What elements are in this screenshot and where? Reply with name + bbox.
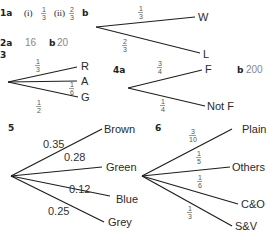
q3-branch-g [8, 82, 78, 97]
q1-outcome-w: W [198, 11, 209, 23]
q6-branch-co [142, 176, 238, 204]
q1-branch-w [96, 17, 195, 27]
q2-b-value: 20 [57, 37, 69, 48]
svg-text:3: 3 [139, 13, 143, 20]
svg-text:1: 1 [70, 81, 74, 88]
svg-text:3: 3 [36, 66, 40, 73]
q3-tree-diagram: 1 3 1 6 1 2 R A G [8, 58, 90, 114]
q5-prob-brown: 0.35 [43, 138, 64, 150]
svg-text:2: 2 [70, 6, 74, 13]
q5-outcome-grey: Grey [108, 216, 132, 228]
q4-part-b: b [237, 65, 244, 75]
q3-branch-r [8, 67, 77, 82]
svg-text:1: 1 [188, 205, 192, 212]
svg-text:1: 1 [37, 99, 41, 106]
svg-text:1: 1 [139, 5, 143, 12]
q5-prob-grey: 0.25 [48, 205, 69, 217]
svg-text:1: 1 [198, 174, 202, 181]
q5-tree-diagram: 0.35 0.28 0.12 0.25 Brown Green Blue Gre… [11, 123, 138, 228]
answers-page: 1a (i) 1 3 (ii) 2 3 b 1 3 2 3 [0, 0, 272, 236]
svg-text:6: 6 [70, 89, 74, 96]
q4-number: 4a [113, 65, 125, 75]
q6-branch-plain [142, 129, 232, 176]
q6-prob-plain: 3 10 [189, 128, 197, 143]
svg-text:3: 3 [188, 213, 192, 220]
svg-text:6: 6 [198, 182, 202, 189]
q4-prob-not-f: 1 4 [160, 98, 165, 113]
q6-branch-others [142, 167, 230, 176]
q2-a-value: 16 [25, 37, 37, 48]
q6-prob-co: 1 6 [197, 174, 202, 189]
q1-part-b: b [82, 8, 89, 18]
q4-tree-diagram: 3 4 1 4 F Not F [128, 60, 234, 113]
q1-part-i-fraction: 1 3 [41, 6, 46, 21]
q3-prob-g: 1 2 [36, 99, 41, 114]
q6-outcome-co: C&O [241, 198, 265, 210]
q6-answer: 6 3 10 1 5 1 6 1 3 [142, 123, 266, 232]
q1-number: 1a [0, 8, 12, 18]
q6-prob-others: 1 5 [196, 150, 201, 165]
q1-branch-l [96, 27, 200, 53]
svg-text:4: 4 [161, 106, 165, 113]
q5-outcome-green: Green [106, 161, 137, 173]
q3-branch-a [8, 81, 77, 82]
svg-text:1: 1 [42, 6, 46, 13]
q6-outcome-sv: S&V [235, 220, 258, 232]
q6-number: 6 [155, 123, 161, 133]
q1-part-i-label: (i) [24, 8, 33, 18]
q3-prob-r: 1 3 [35, 58, 40, 73]
q5-outcome-brown: Brown [104, 123, 135, 135]
q3-outcome-r: R [81, 60, 89, 72]
svg-text:3: 3 [191, 128, 195, 135]
q5-prob-green: 0.28 [64, 151, 85, 163]
q4-outcome-not-f: Not F [207, 100, 234, 112]
q4-branch-not-f [128, 88, 205, 106]
q3-number: 3 [0, 50, 6, 60]
q1-part-ii-label: (ii) [54, 8, 65, 18]
q6-outcome-plain: Plain [242, 123, 266, 135]
q1-outcome-l: L [203, 48, 209, 60]
q5-prob-blue: 0.12 [69, 183, 90, 195]
q4-outcome-f: F [205, 63, 212, 75]
q3-outcome-g: G [81, 91, 90, 103]
q4-answer: 4a b 200 3 4 1 4 F Not F [113, 60, 263, 113]
q5-branch-blue [11, 176, 110, 196]
q3-answer: 3 1 3 1 6 1 2 R A G [0, 50, 90, 114]
svg-text:3: 3 [70, 14, 74, 21]
q3-prob-a: 1 6 [69, 81, 74, 96]
svg-text:2: 2 [37, 107, 41, 114]
q3-outcome-a: A [81, 75, 89, 87]
q2-part-b: b [49, 38, 56, 48]
q2-number: 2a [0, 38, 12, 48]
svg-text:10: 10 [189, 136, 197, 143]
svg-text:3: 3 [42, 14, 46, 21]
q1-tree-diagram: 1 3 2 3 W L [96, 5, 209, 60]
svg-text:1: 1 [197, 150, 201, 157]
svg-text:2: 2 [123, 38, 127, 45]
svg-text:4: 4 [158, 68, 162, 75]
q6-branch-sv [142, 176, 232, 226]
q1-prob-l: 2 3 [122, 38, 127, 53]
svg-text:1: 1 [161, 98, 165, 105]
q2-answer: 2a 16 b 20 [0, 37, 69, 48]
q4-prob-f: 3 4 [157, 60, 162, 75]
q6-tree-diagram: 3 10 1 5 1 6 1 3 Plain Others C&O S [142, 123, 266, 232]
q1-part-ii-fraction: 2 3 [69, 6, 74, 21]
q5-outcome-blue: Blue [116, 193, 138, 205]
svg-text:3: 3 [158, 60, 162, 67]
q1-answer: 1a (i) 1 3 (ii) 2 3 b 1 3 2 3 [0, 5, 209, 60]
q1-prob-w: 1 3 [138, 5, 143, 20]
q4-branch-f [128, 70, 202, 88]
q6-outcome-others: Others [232, 161, 266, 173]
q6-prob-sv: 1 3 [187, 205, 192, 220]
svg-text:3: 3 [123, 46, 127, 53]
svg-text:1: 1 [36, 58, 40, 65]
q5-answer: 5 0.35 0.28 0.12 0.25 Brown Green Blue G… [8, 123, 138, 228]
q5-number: 5 [8, 123, 14, 133]
q4-b-value: 200 [246, 64, 263, 75]
svg-text:5: 5 [197, 158, 201, 165]
